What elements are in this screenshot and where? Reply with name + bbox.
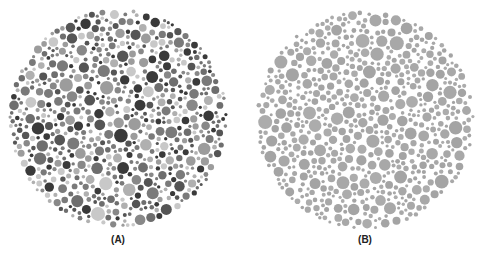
dot-plate-a — [9, 10, 228, 228]
panel-label-b: (B) — [345, 234, 385, 245]
plate-a — [0, 0, 484, 262]
dot-plate-b — [257, 11, 475, 229]
panel-label-a: (A) — [98, 234, 138, 245]
